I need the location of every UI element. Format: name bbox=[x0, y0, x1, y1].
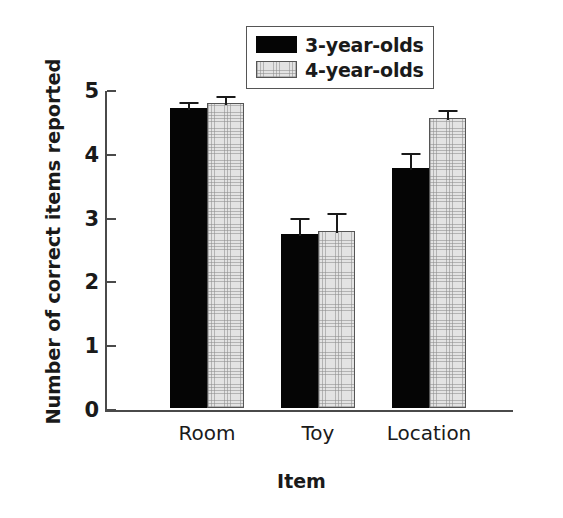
legend-swatch-icon-3-year-olds bbox=[256, 36, 297, 53]
y-axis-tick-label: 5 bbox=[84, 81, 99, 102]
plot-area: 012345RoomToyLocation bbox=[105, 91, 513, 410]
error-bar-cap bbox=[290, 218, 309, 220]
error-bar-cap bbox=[327, 213, 346, 215]
bar-room-4-year-olds bbox=[207, 103, 244, 408]
legend-swatch-icon-4-year-olds bbox=[256, 61, 297, 78]
legend-label-4-year-olds: 4-year-olds bbox=[305, 59, 424, 81]
error-bar-cap bbox=[216, 96, 235, 98]
y-axis-line bbox=[105, 91, 107, 412]
y-axis-tick: 1 bbox=[107, 345, 116, 347]
error-bar-stem bbox=[410, 153, 412, 170]
legend-item-3-year-olds: 3-year-olds bbox=[256, 32, 424, 57]
y-axis-tick: 4 bbox=[107, 154, 116, 156]
y-axis-title: Number of correct items reported bbox=[42, 85, 65, 425]
bar-location-4-year-olds bbox=[429, 118, 466, 408]
y-axis-tick: 0 bbox=[107, 409, 116, 411]
y-axis-tick: 5 bbox=[107, 90, 116, 92]
x-axis-category-label-toy: Toy bbox=[302, 421, 335, 445]
x-axis-category-label-room: Room bbox=[179, 421, 236, 445]
legend-item-4-year-olds: 4-year-olds bbox=[256, 57, 424, 82]
y-axis-tick-label: 2 bbox=[84, 272, 99, 293]
bar-toy-4-year-olds bbox=[318, 231, 355, 408]
error-bar-toy-3-year-olds bbox=[281, 218, 318, 236]
x-axis-line bbox=[105, 410, 513, 412]
error-bar-location-3-year-olds bbox=[392, 153, 429, 170]
bar-room-3-year-olds bbox=[170, 108, 207, 408]
legend-label-3-year-olds: 3-year-olds bbox=[305, 34, 424, 56]
y-axis-tick-label: 1 bbox=[84, 336, 99, 357]
y-axis-tick: 2 bbox=[107, 281, 116, 283]
bar-toy-3-year-olds bbox=[281, 234, 318, 408]
chart-legend: 3-year-olds 4-year-olds bbox=[246, 26, 434, 89]
y-axis-tick-label: 4 bbox=[84, 144, 99, 165]
y-axis-tick-label: 3 bbox=[84, 208, 99, 229]
error-bar-room-4-year-olds bbox=[207, 96, 244, 105]
y-axis-tick-label: 0 bbox=[84, 400, 99, 421]
x-axis-title-text: Item bbox=[277, 470, 326, 492]
error-bar-toy-4-year-olds bbox=[318, 213, 355, 232]
bar-chart-figure: Number of correct items reported 012345R… bbox=[0, 0, 563, 518]
error-bar-stem bbox=[299, 218, 301, 236]
error-bar-cap bbox=[401, 153, 420, 155]
x-axis-title: Item bbox=[0, 470, 563, 492]
error-bar-location-4-year-olds bbox=[429, 110, 466, 120]
error-bar-cap bbox=[179, 102, 198, 104]
y-axis-tick: 3 bbox=[107, 218, 116, 220]
error-bar-stem bbox=[336, 213, 338, 232]
x-axis-category-label-location: Location bbox=[387, 421, 472, 445]
error-bar-room-3-year-olds bbox=[170, 102, 207, 110]
bar-location-3-year-olds bbox=[392, 168, 429, 408]
error-bar-cap bbox=[438, 110, 457, 112]
